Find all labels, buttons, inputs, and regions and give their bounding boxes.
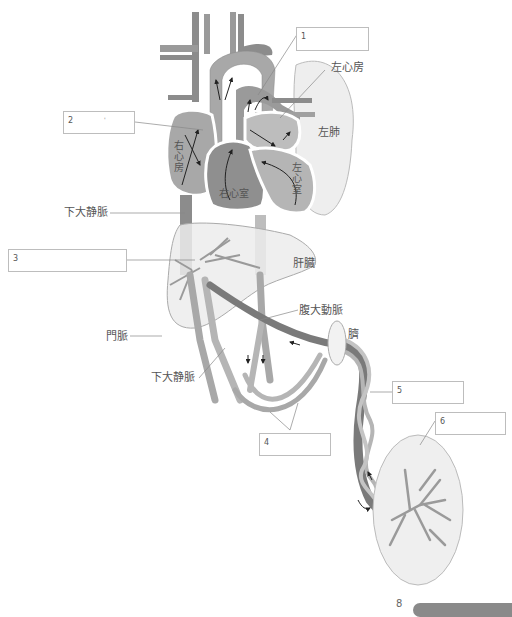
- label-ivc-upper: 下大静脈: [64, 207, 108, 218]
- answer-box-3-number: 3: [13, 254, 18, 263]
- answer-box-5[interactable]: 5: [392, 381, 464, 404]
- label-left-atrium: 左心房: [331, 62, 364, 73]
- label-right-atrium: 右心房: [172, 140, 182, 173]
- label-left-ventricle: 左心室: [290, 162, 300, 195]
- answer-box-2-mark: ': [104, 116, 106, 123]
- answer-box-1[interactable]: 1: [296, 27, 369, 51]
- answer-box-2-number: 2: [68, 116, 73, 125]
- label-navel: 臍: [348, 329, 359, 340]
- answer-box-1-number: 1: [301, 32, 306, 41]
- answer-box-2[interactable]: 2 ': [63, 111, 135, 134]
- placenta: [373, 435, 463, 585]
- answer-box-4[interactable]: 4: [259, 433, 331, 456]
- footer-badge: [413, 603, 512, 617]
- label-liver: 肝臓: [293, 258, 315, 269]
- navel-ring: [328, 321, 346, 365]
- answer-box-5-number: 5: [397, 386, 402, 395]
- answer-box-4-number: 4: [264, 438, 269, 447]
- label-portal-vein: 門脈: [106, 331, 128, 342]
- page-mark: 8: [396, 598, 402, 609]
- label-ivc-lower: 下大静脈: [151, 372, 195, 383]
- answer-box-6-number: 6: [440, 417, 445, 426]
- label-left-lung: 左肺: [318, 127, 340, 138]
- label-abdominal-aorta: 腹大動脈: [299, 305, 343, 316]
- label-right-ventricle: 右心室: [219, 189, 249, 199]
- answer-box-6[interactable]: 6: [435, 412, 506, 435]
- answer-box-3[interactable]: 3: [8, 249, 127, 272]
